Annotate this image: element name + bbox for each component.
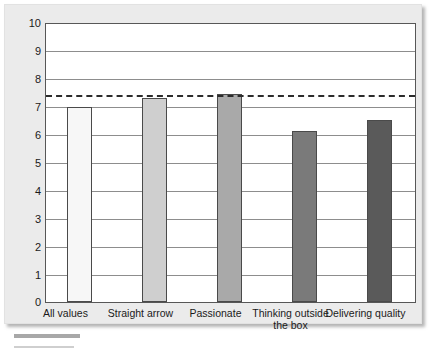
gridline-8 <box>46 79 415 80</box>
plot-area <box>45 23 416 303</box>
x-label-straight-arrow: Straight arrow <box>100 307 181 319</box>
decorative-rule <box>14 334 80 338</box>
y-tick-10: 10 <box>11 18 41 29</box>
y-tick-6: 6 <box>11 130 41 141</box>
decorative-rule-secondary <box>14 346 74 348</box>
bar-delivering-quality <box>367 120 392 302</box>
y-tick-3: 3 <box>11 214 41 225</box>
y-tick-2: 2 <box>11 242 41 253</box>
chart-figure: 10 9 8 7 6 5 4 3 2 1 0 <box>0 0 434 354</box>
y-tick-4: 4 <box>11 186 41 197</box>
bar-thinking-outside-the-box <box>292 131 317 302</box>
y-tick-1: 1 <box>11 270 41 281</box>
chart-panel: 10 9 8 7 6 5 4 3 2 1 0 <box>4 4 422 324</box>
y-tick-5: 5 <box>11 158 41 169</box>
gridline-9 <box>46 51 415 52</box>
x-label-thinking-outside-the-box: Thinking outside the box <box>250 307 331 331</box>
y-tick-9: 9 <box>11 46 41 57</box>
bar-passionate <box>217 94 242 303</box>
y-tick-7: 7 <box>11 102 41 113</box>
x-label-passionate: Passionate <box>175 307 256 319</box>
reference-line <box>46 95 415 97</box>
y-axis: 10 9 8 7 6 5 4 3 2 1 0 <box>7 23 41 303</box>
x-label-delivering-quality: Delivering quality <box>325 307 406 319</box>
x-label-all-values: All values <box>25 307 106 319</box>
y-tick-8: 8 <box>11 74 41 85</box>
bar-all-values <box>67 107 92 302</box>
bar-straight-arrow <box>142 98 167 302</box>
